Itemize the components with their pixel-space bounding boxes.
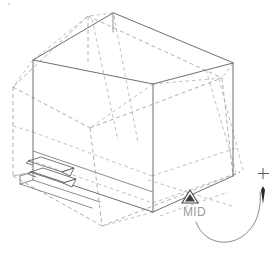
decorative-speck [8, 3, 10, 5]
preview-box-dashed [13, 13, 243, 226]
crosshair-plus-icon [258, 168, 269, 179]
snap-label: MID [183, 205, 206, 219]
arrow-pointer-icon [261, 186, 265, 204]
cad-viewport[interactable]: MID cad-3d-viewport midpoint isometric p… [0, 0, 279, 256]
cad-drawing-canvas[interactable]: MID [0, 0, 279, 256]
primary-box-solid[interactable] [20, 13, 233, 212]
